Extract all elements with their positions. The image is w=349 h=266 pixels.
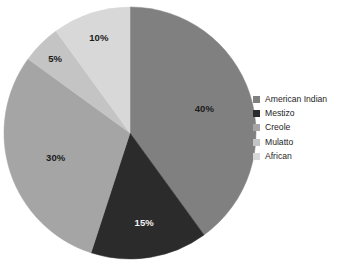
pie-slices-group xyxy=(4,7,256,259)
pie-chart-figure: 40%15%30%5%10% American IndianMestizoCre… xyxy=(0,0,349,266)
legend-item-label: African xyxy=(265,152,292,161)
legend-item[interactable]: Creole xyxy=(253,121,349,135)
chart-legend: American IndianMestizoCreoleMulattoAfric… xyxy=(253,92,349,163)
pie-slice-value-label: 5% xyxy=(48,53,62,64)
legend-item-label: Mulatto xyxy=(265,138,293,147)
pie-slice-value-label: 15% xyxy=(135,217,155,228)
legend-swatch-icon xyxy=(253,139,260,146)
pie-chart-plot-area: 40%15%30%5%10% xyxy=(2,5,258,261)
legend-item-label: Creole xyxy=(265,123,290,132)
legend-swatch-icon xyxy=(253,124,260,131)
legend-swatch-icon xyxy=(253,96,260,103)
pie-slice-value-label: 40% xyxy=(195,103,215,114)
legend-item[interactable]: American Indian xyxy=(253,92,349,106)
pie-slice-value-label: 30% xyxy=(46,152,66,163)
legend-swatch-icon xyxy=(253,153,260,160)
legend-item[interactable]: Mulatto xyxy=(253,135,349,149)
legend-item-label: Mestizo xyxy=(265,109,295,118)
legend-item[interactable]: African xyxy=(253,149,349,163)
pie-slice-value-label: 10% xyxy=(89,32,109,43)
legend-item[interactable]: Mestizo xyxy=(253,106,349,120)
legend-item-label: American Indian xyxy=(265,95,327,104)
pie-chart-svg: 40%15%30%5%10% xyxy=(2,5,258,261)
legend-swatch-icon xyxy=(253,110,260,117)
